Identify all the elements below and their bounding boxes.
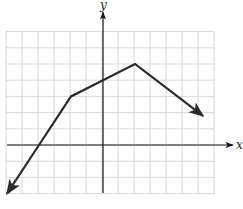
- x-axis-label: x: [236, 138, 243, 152]
- grid-lines: [6, 32, 215, 194]
- axes: [7, 12, 233, 193]
- y-axis-label: y: [99, 0, 107, 12]
- coordinate-plane: y x: [0, 0, 243, 209]
